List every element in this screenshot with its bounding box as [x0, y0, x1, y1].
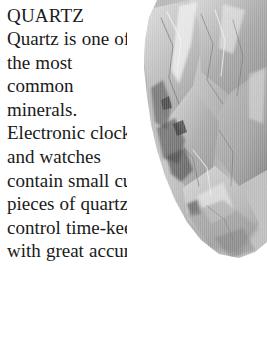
quartz-crystal-illustration: [127, 0, 267, 268]
quartz-specimen-photo: [127, 0, 267, 268]
encyclopedia-entry-page: QUARTZ Quartz is one of the most common …: [0, 0, 267, 345]
